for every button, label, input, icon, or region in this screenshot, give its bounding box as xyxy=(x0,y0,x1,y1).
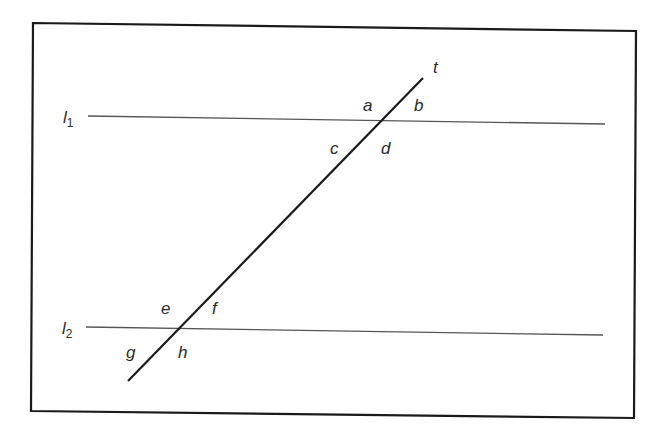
angle-label-b: b xyxy=(414,96,423,115)
angle-label-a: a xyxy=(363,96,372,115)
angle-label-d: d xyxy=(381,139,391,158)
diagram-frame xyxy=(31,23,636,418)
parallel-line-l2 xyxy=(86,327,603,335)
label-l1: l1 xyxy=(63,108,74,130)
label-transversal-t: t xyxy=(433,58,439,77)
transversal-line-t xyxy=(128,78,423,381)
angle-label-f: f xyxy=(212,299,219,318)
angle-label-e: e xyxy=(161,299,170,318)
angle-label-g: g xyxy=(126,343,136,362)
angle-label-h: h xyxy=(178,343,187,362)
angle-label-c: c xyxy=(330,139,339,158)
label-l2: l2 xyxy=(62,319,73,341)
parallel-line-l1 xyxy=(88,116,605,124)
parallel-lines-diagram: l1 l2 t a b c d e f g h xyxy=(0,0,664,435)
